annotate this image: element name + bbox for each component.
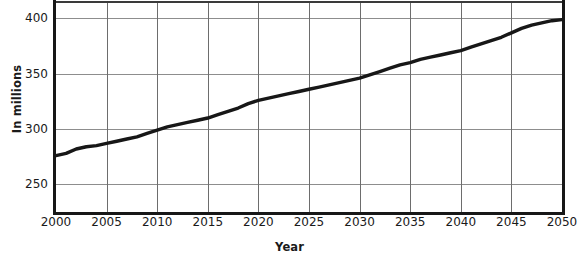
plot-area: [56, 3, 562, 212]
plot-border-right: [562, 0, 565, 215]
x-tick-label: 2050: [532, 216, 579, 229]
y-tick-label: 300: [0, 123, 56, 135]
y-tick-label: 400: [0, 12, 56, 24]
population-line-chart: In millions Year 250300350400 2000200520…: [0, 0, 579, 260]
y-tick-label: 350: [0, 68, 56, 80]
x-axis-title: Year: [0, 240, 579, 254]
x-axis-line: [53, 212, 565, 215]
data-series-line: [56, 3, 562, 212]
y-tick-label: 250: [0, 178, 56, 190]
